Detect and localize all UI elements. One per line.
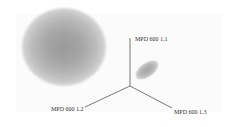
axis-label-1-1: MPD 600 1.1 (135, 36, 168, 42)
scatter-3d-plot: MPD 600 1.1 MPD 600 1.2 MPD 600 1.3 (0, 0, 229, 127)
axis-1-3 (130, 86, 172, 108)
axis-label-1-3: MPD 600 1.3 (174, 109, 207, 115)
axis-label-1-2: MPD 600 1.2 (51, 106, 84, 112)
axes-3d (0, 0, 229, 127)
axis-1-2 (85, 86, 130, 107)
